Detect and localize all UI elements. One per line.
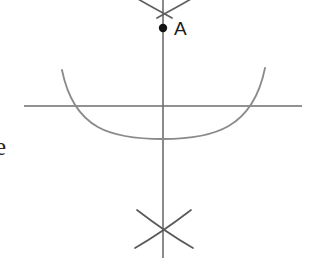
point-a-marker bbox=[159, 24, 167, 32]
construction-drawing-canvas bbox=[0, 0, 310, 258]
geometric-construction-figure: A e bbox=[0, 0, 310, 258]
point-a-label: A bbox=[174, 19, 187, 38]
top-cross-arc-left bbox=[130, 0, 172, 18]
clipped-edge-letter: e bbox=[0, 134, 6, 159]
